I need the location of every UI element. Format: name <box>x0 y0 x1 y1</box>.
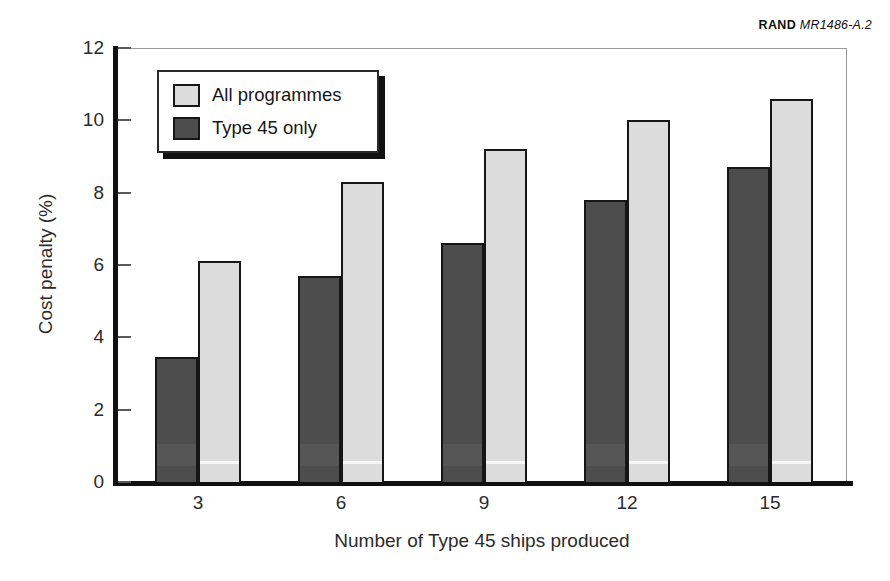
bar-all-programmes-15 <box>770 99 813 482</box>
x-axis-tick-label: 9 <box>444 493 524 514</box>
y-axis-tick-label: 2 <box>4 400 104 419</box>
bar-all-programmes-3 <box>198 261 241 482</box>
chart-legend: All programmes Type 45 only <box>157 70 379 153</box>
y-axis-tick-label: 4 <box>4 327 104 346</box>
y-axis-tick <box>118 264 131 266</box>
chart-figure: RAND MR1486-A.2 Cost penalty (%) Number … <box>0 0 890 581</box>
bar-all-programmes-6 <box>341 182 384 482</box>
y-axis-tick <box>118 336 131 338</box>
bar-type-45-only-9 <box>441 243 484 482</box>
legend-label-all-programmes: All programmes <box>212 86 342 105</box>
y-axis-tick-label: 12 <box>4 38 104 57</box>
rand-source-credit: RAND MR1486-A.2 <box>759 18 872 32</box>
x-axis-tick-label: 15 <box>730 493 810 514</box>
legend-swatch-all-programmes <box>173 84 200 107</box>
x-axis-tick-label: 3 <box>158 493 238 514</box>
bar-type-45-only-15 <box>727 167 770 482</box>
document-code: MR1486-A.2 <box>800 18 872 32</box>
bar-type-45-only-3 <box>155 357 198 482</box>
y-axis-tick-label: 6 <box>4 255 104 274</box>
bar-all-programmes-9 <box>484 149 527 482</box>
legend-label-type-45-only: Type 45 only <box>212 119 317 138</box>
x-axis-tick-label: 12 <box>587 493 667 514</box>
x-axis-tick-label: 6 <box>301 493 381 514</box>
bar-all-programmes-12 <box>627 120 670 482</box>
y-axis-tick <box>118 119 131 121</box>
y-axis-tick <box>118 47 131 49</box>
legend-swatch-type-45-only <box>173 117 200 140</box>
y-axis-tick <box>118 192 131 194</box>
bar-type-45-only-6 <box>298 276 341 482</box>
legend-item-all-programmes: All programmes <box>173 79 377 112</box>
y-axis-tick-label: 8 <box>4 183 104 202</box>
y-axis-line <box>113 46 118 486</box>
y-axis-tick <box>118 481 131 483</box>
y-axis-tick-label: 10 <box>4 110 104 129</box>
bar-type-45-only-12 <box>584 200 627 482</box>
y-axis-tick-label: 0 <box>4 472 104 491</box>
y-axis-tick <box>118 409 131 411</box>
legend-item-type-45-only: Type 45 only <box>173 112 377 145</box>
x-axis-title: Number of Type 45 ships produced <box>117 530 847 552</box>
rand-logo-text: RAND <box>759 18 797 32</box>
